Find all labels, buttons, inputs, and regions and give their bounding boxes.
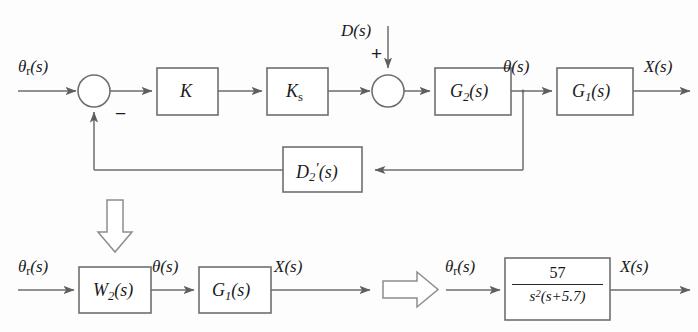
label-block-g2: G2(s): [450, 82, 488, 103]
label-block-ks: Ks: [286, 82, 303, 103]
reduced-transfer-function: 57 s2(s+5.7): [512, 265, 603, 305]
label-block-g1-top: G1(s): [572, 82, 610, 103]
tf-numerator: 57: [512, 265, 603, 283]
label-block-w2: W2(s): [93, 281, 133, 302]
tf-fraction-bar: [512, 284, 603, 285]
label-sum1-negative: −: [115, 104, 126, 123]
tf-denominator: s2(s+5.7): [512, 287, 603, 305]
label-theta-node: θ(s): [503, 58, 529, 75]
label-reduced-output-x: X(s): [620, 258, 648, 275]
label-bottom-output-x: X(s): [274, 258, 302, 275]
block-diagram-figure: θr(s) − K Ks D(s) + G2(s) θ(s) G1(s) X(s…: [0, 0, 698, 332]
implies-down-arrow: [98, 200, 132, 252]
implies-right-arrow: [383, 272, 438, 307]
label-output-x: X(s): [644, 58, 672, 75]
label-sum2-positive: +: [371, 44, 382, 63]
label-block-d2-prime: D2′(s): [296, 160, 338, 184]
summing-junction-2: [372, 75, 404, 107]
label-bottom-theta: θ(s): [152, 258, 178, 275]
label-block-k: K: [180, 82, 192, 100]
label-bottom-input-theta-r: θr(s): [18, 258, 48, 278]
label-reduced-input-theta-r: θr(s): [445, 258, 475, 278]
label-block-g1-bottom: G1(s): [212, 281, 250, 302]
label-disturbance: D(s): [341, 22, 371, 39]
summing-junction-1: [78, 75, 110, 107]
label-input-theta-r: θr(s): [18, 58, 48, 78]
